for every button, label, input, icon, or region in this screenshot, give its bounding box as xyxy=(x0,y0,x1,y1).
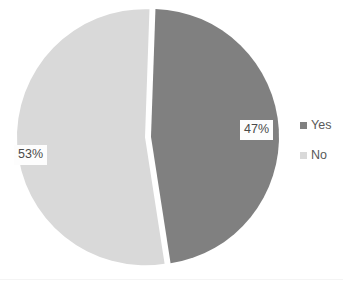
legend-label-yes: Yes xyxy=(311,119,331,132)
bottom-border-artifact xyxy=(0,279,343,280)
legend-swatch-yes-icon xyxy=(300,122,307,129)
pie-chart-canvas xyxy=(0,0,343,286)
data-label-no: 53% xyxy=(14,145,47,165)
legend: Yes No xyxy=(300,110,343,170)
legend-label-no: No xyxy=(311,149,327,162)
pie-chart: 47% 53% Yes No xyxy=(0,0,343,286)
legend-swatch-no-icon xyxy=(300,152,307,159)
legend-item-no[interactable]: No xyxy=(300,140,343,170)
data-label-yes: 47% xyxy=(240,120,273,140)
pie-slice-no[interactable] xyxy=(17,9,165,265)
legend-item-yes[interactable]: Yes xyxy=(300,110,343,140)
